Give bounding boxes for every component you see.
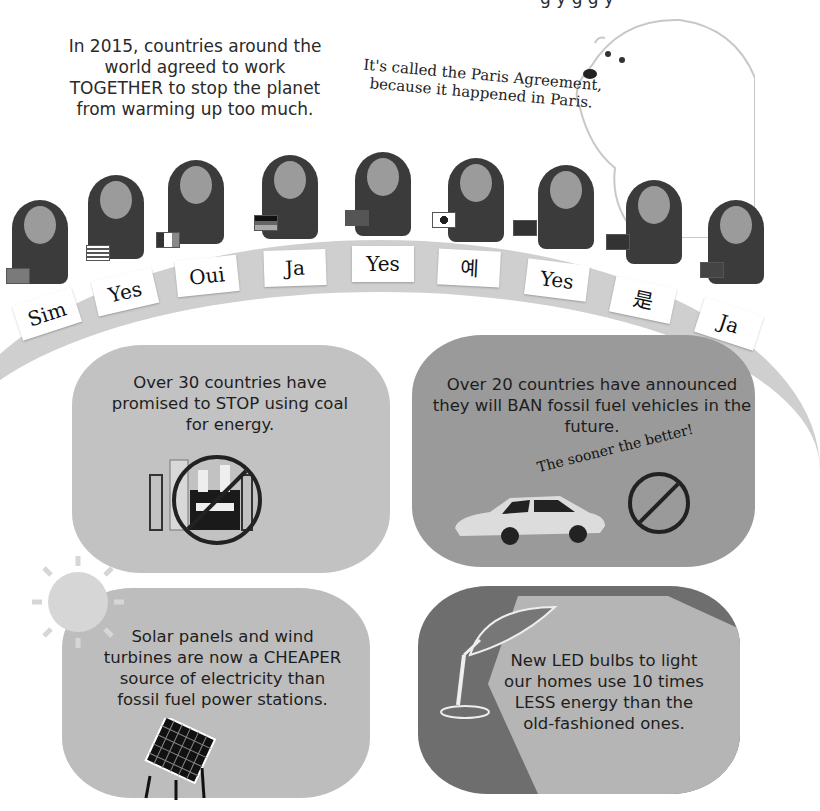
no-symbol-icon [172,455,262,545]
solar-panel-icon [140,718,220,800]
flag-uk-icon [513,220,537,236]
flag-norway-icon [700,262,724,278]
led-panel-text: New LED bulbs to light our homes use 10 … [498,650,710,734]
vote-card-south-korea: 예 [437,248,501,287]
flag-germany-icon [254,215,278,231]
delegate-china [626,180,682,264]
flag-brazil-icon [6,268,30,284]
flag-usa-icon [86,245,110,261]
car-icon [450,488,610,548]
vote-card-france: Oui [174,255,239,297]
no-exhaust-icon [628,472,690,534]
vote-card-germany: Ja [263,249,326,287]
flag-south-korea-icon [432,212,456,228]
coal-panel-text: Over 30 countries have promised to STOP … [110,372,350,435]
intro-text: In 2015, countries around the world agre… [60,36,330,120]
vote-card-uk: Yes [524,258,590,301]
cut-off-heading: g y g g y [540,0,614,8]
delegate-south-korea [448,158,504,242]
delegate-uk [538,165,594,249]
flag-france-icon [156,232,180,248]
solar-panel-text: Solar panels and wind turbines are now a… [100,626,345,710]
vehicles-panel-text: Over 20 countries have announced they wi… [432,374,752,437]
flag-south-africa-icon [345,210,369,226]
vote-card-south-africa: Yes [352,246,414,282]
flag-china-icon [606,234,630,250]
